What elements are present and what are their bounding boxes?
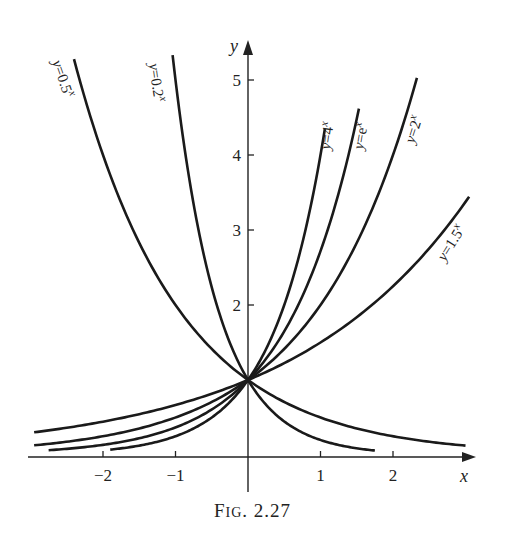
curve-labels: y=0.5xy=0.2xy=4xy=exy=2xy=1.5x xyxy=(49,55,469,265)
x-tick-label: 1 xyxy=(316,466,325,485)
y-tick-label: 3 xyxy=(233,221,242,240)
curve-label: y=0.2x xyxy=(146,60,171,103)
curve-label: y=ex xyxy=(347,121,371,153)
curve-y-0-2-x xyxy=(173,55,375,450)
caption-rest: . 2.27 xyxy=(242,500,291,521)
caption-prefix: F xyxy=(214,500,226,521)
y-axis-label: y xyxy=(228,36,238,56)
x-tick-label: 2 xyxy=(389,466,398,485)
x-axis-arrow-icon xyxy=(462,452,476,462)
x-tick-label: −2 xyxy=(94,466,112,485)
x-axis-label: x xyxy=(459,466,468,486)
y-tick-label: 2 xyxy=(233,296,242,315)
curve-label: y=4x xyxy=(314,120,337,152)
y-tick-label: 5 xyxy=(233,71,242,90)
x-tick-label: −1 xyxy=(166,466,184,485)
y-axis-arrow-icon xyxy=(243,40,253,55)
figure-caption: FIG. 2.27 xyxy=(0,500,505,522)
curve-y-1-5-x xyxy=(34,197,469,433)
curve-y-4-x xyxy=(110,129,325,450)
ticks: −2−1122345 xyxy=(94,71,397,485)
caption-smallcaps: IG xyxy=(226,505,243,520)
curve-label: y=1.5x xyxy=(430,221,468,266)
y-tick-label: 4 xyxy=(233,146,242,165)
exponential-curves-chart: x y −2−1122345 y=0.5xy=0.2xy=4xy=exy=2xy… xyxy=(0,0,505,548)
curves xyxy=(34,55,469,450)
curve-y-e-x xyxy=(49,109,359,451)
